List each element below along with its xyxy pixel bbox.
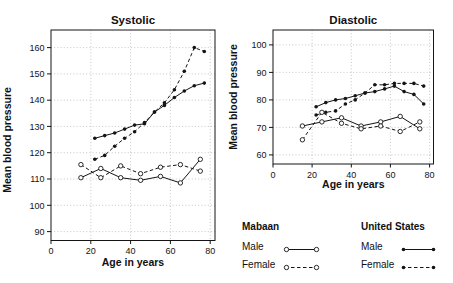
data-point-marker [314, 105, 318, 109]
legend-sample-canvas [399, 262, 439, 273]
data-point-marker [113, 144, 117, 148]
legend-sample-marker [314, 265, 318, 269]
data-point-marker [133, 123, 137, 127]
data-point-marker [119, 176, 123, 180]
x-tick-label: 60 [385, 170, 395, 180]
data-point-marker [123, 127, 127, 131]
data-point-marker [353, 98, 357, 102]
data-point-marker [379, 124, 383, 128]
data-point-marker [99, 176, 103, 180]
data-point-marker [412, 82, 416, 86]
legend-item-label: Female [242, 259, 282, 270]
legend-line-sample [399, 259, 439, 270]
data-point-marker [198, 169, 202, 173]
plot-border [273, 30, 434, 164]
data-point-marker [383, 87, 387, 91]
legend-sample-marker [284, 265, 288, 269]
data-point-marker [138, 178, 142, 182]
y-tick-label: 120 [29, 148, 44, 158]
data-point-marker [173, 96, 177, 100]
y-tick-label: 100 [29, 201, 44, 211]
legend-sample-marker [432, 265, 436, 269]
legend-group-title: United States [361, 221, 439, 233]
legend-item-label: Female [361, 259, 399, 270]
data-point-marker [143, 121, 147, 125]
legend-group-united-states: United States Male Female [361, 221, 439, 273]
x-tick-label: 80 [425, 170, 435, 180]
data-point-marker [334, 98, 338, 102]
x-tick-label: 20 [86, 246, 96, 256]
data-point-marker [344, 102, 348, 106]
legend-item: Female [242, 255, 322, 273]
x-tick-label: 20 [307, 170, 317, 180]
legend-group-mabaan: Mabaan Male Female [242, 221, 322, 273]
data-point-marker [320, 120, 324, 124]
legend-sample-marker [284, 247, 288, 251]
y-tick-label: 100 [251, 40, 266, 50]
data-point-marker [119, 164, 123, 168]
data-point-marker [402, 90, 406, 94]
legend-item: Male [242, 237, 322, 255]
data-point-marker [193, 46, 197, 50]
data-point-marker [103, 154, 107, 158]
y-tick-label: 70 [256, 123, 266, 133]
data-point-marker [99, 166, 103, 170]
legend-item-label: Male [242, 241, 282, 252]
data-point-marker [163, 101, 167, 105]
data-point-marker [344, 97, 348, 101]
data-point-marker [123, 137, 127, 141]
x-tick-label: 0 [48, 246, 53, 256]
legend-sample-canvas [282, 244, 322, 255]
data-point-marker [339, 116, 343, 120]
data-point-marker [422, 84, 426, 88]
data-point-marker [373, 83, 377, 87]
data-point-marker [173, 88, 177, 92]
series-line [95, 83, 205, 138]
data-point-marker [93, 158, 97, 162]
legend-line-sample [282, 241, 322, 252]
data-point-marker [353, 94, 357, 98]
data-point-marker [363, 91, 367, 95]
data-point-marker [393, 82, 397, 86]
y-tick-label: 60 [256, 150, 266, 160]
y-tick-label: 80 [256, 95, 266, 105]
y-tick-label: 150 [29, 69, 44, 79]
series-mabaan-female [79, 162, 203, 179]
data-point-marker [193, 84, 197, 88]
data-point-marker [412, 93, 416, 97]
y-tick-label: 130 [29, 122, 44, 132]
data-point-marker [113, 131, 117, 135]
data-point-marker [138, 172, 142, 176]
data-point-marker [183, 89, 187, 93]
legend-group-title: Mabaan [242, 221, 322, 233]
series-united-states-female [314, 82, 425, 117]
data-point-marker [300, 124, 304, 128]
data-point-marker [324, 101, 328, 105]
data-point-marker [203, 81, 207, 85]
plot-border [51, 30, 215, 241]
series-united-states-male [314, 84, 425, 108]
data-point-marker [422, 102, 426, 106]
y-axis-label: Mean blood pressure [1, 87, 13, 193]
data-point-marker [133, 130, 137, 134]
x-tick-label: 0 [270, 170, 275, 180]
data-point-marker [158, 174, 162, 178]
data-point-marker [153, 110, 157, 114]
legend-sample-marker [402, 265, 406, 269]
legend-item: Female [361, 255, 439, 273]
chart-systolic: 90100110120130140150160020406080Systolic… [1, 14, 215, 268]
legend-sample-canvas [282, 262, 322, 273]
data-point-marker [203, 50, 207, 54]
legend-item: Male [361, 237, 439, 255]
data-point-marker [418, 120, 422, 124]
chart-diastolic: 60708090100020406080DiastolicAge in year… [227, 14, 435, 190]
series-united-states-female [93, 46, 206, 161]
y-tick-label: 160 [29, 43, 44, 53]
x-tick-label: 80 [205, 246, 215, 256]
legend-sample-marker [314, 247, 318, 251]
data-point-marker [178, 162, 182, 166]
x-axis-label: Age in years [322, 178, 385, 190]
data-point-marker [178, 181, 182, 185]
data-point-marker [300, 138, 304, 142]
x-tick-label: 60 [165, 246, 175, 256]
